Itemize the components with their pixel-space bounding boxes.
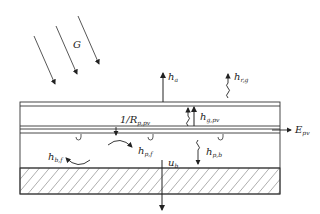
h-r-g-radiation-arrow [227,74,230,98]
h-g-pv-radiation-arrow [187,108,190,126]
irradiance-label: G [73,39,81,50]
h-r-g-label: hr,g [234,71,249,84]
h-p-b-arrow [197,140,200,164]
h-a-label: ha [168,71,178,83]
h-p-b-label: hp,b [206,146,222,159]
u-b-label: ub [168,157,178,169]
solar-irradiance-arrows [34,16,99,84]
h-g-pv-label: hg,pv [200,111,220,124]
h-p-f-label: hp,f [138,145,154,158]
h-b-f-label: hb,f [48,151,64,164]
insulation-layer [20,168,280,194]
r-p-pv-label: 1/Rp,pv [120,114,151,127]
h-p-f-arrow [108,140,132,147]
h-b-f-arrow [66,158,90,165]
pvt-diagram: G ha hr,g hg,pv 1/Rp,pv Epv hp,f hp,b hb… [0,0,320,214]
fluid-tubes [76,134,223,140]
e-pv-label: Epv [294,124,310,137]
